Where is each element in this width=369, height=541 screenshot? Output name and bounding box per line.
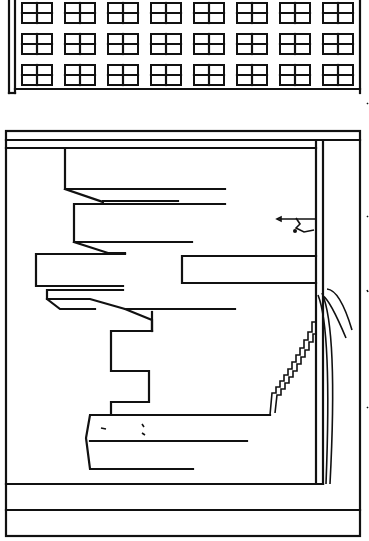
cityscape	[36, 148, 316, 469]
window	[323, 3, 353, 23]
window	[151, 65, 181, 85]
climbing-figure	[277, 217, 316, 233]
window	[194, 3, 224, 23]
window	[108, 34, 138, 54]
window	[65, 3, 95, 23]
margin-marks	[367, 103, 368, 408]
window	[22, 65, 52, 85]
window	[65, 34, 95, 54]
window	[151, 3, 181, 23]
window	[237, 65, 267, 85]
window	[237, 3, 267, 23]
window	[65, 65, 95, 85]
window	[22, 34, 52, 54]
building-facade	[9, 0, 360, 93]
window	[194, 34, 224, 54]
window-grid	[22, 3, 353, 85]
window	[323, 65, 353, 85]
window	[280, 34, 310, 54]
illustration	[0, 0, 369, 541]
panel-frame	[6, 131, 360, 536]
window	[237, 34, 267, 54]
window	[108, 65, 138, 85]
staircase	[270, 289, 352, 484]
window	[280, 65, 310, 85]
window	[151, 34, 181, 54]
window	[194, 65, 224, 85]
window	[323, 34, 353, 54]
window	[22, 3, 52, 23]
window	[108, 3, 138, 23]
window	[280, 3, 310, 23]
